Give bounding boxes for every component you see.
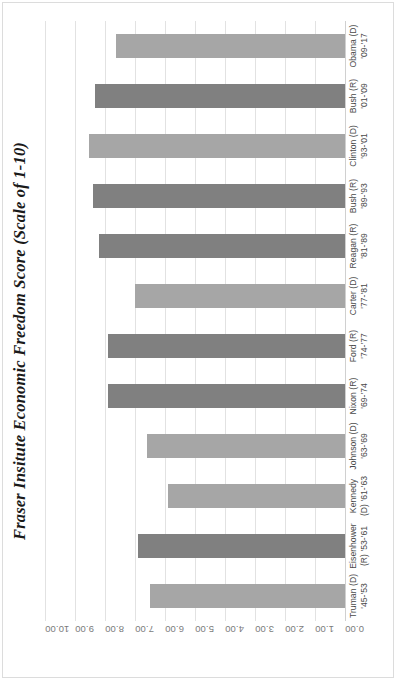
figure-frame: Fraser Insitute Economic Freedom Score (…	[2, 2, 394, 678]
bar	[93, 184, 345, 208]
bar	[135, 284, 345, 308]
category-label: Ford (R)'74-'77	[348, 320, 369, 372]
category-label: Nixon (R)'69-'74	[348, 370, 369, 422]
category-label-years: '77-'81	[359, 270, 370, 322]
category-label-name: Truman (D)	[348, 570, 359, 622]
category-label-name: Reagan (R)	[348, 220, 359, 272]
category-label-name: Johnson (D)	[348, 420, 359, 472]
category-label: Truman (D)'45-'53	[348, 570, 369, 622]
category-label-name: Nixon (R)	[348, 370, 359, 422]
category-label-years: '74-'77	[359, 320, 370, 372]
category-label-years: '81-'89	[359, 220, 370, 272]
bar	[108, 334, 345, 358]
bar	[95, 84, 346, 108]
value-tick-label: 0.00	[345, 623, 391, 635]
category-label-years: '63-'69	[359, 420, 370, 472]
category-label: Bush (R)'89-'93	[348, 170, 369, 222]
category-label-name: Bush (R)	[348, 170, 359, 222]
category-label: Johnson (D)'63-'69	[348, 420, 369, 472]
chart-title: Fraser Insitute Economic Freedom Score (…	[3, 3, 37, 679]
category-label: Obama (D)'09-'17	[348, 20, 369, 72]
category-label-name: Carter (D)	[348, 270, 359, 322]
rotated-chart-stage: Fraser Insitute Economic Freedom Score (…	[3, 3, 395, 679]
bar	[138, 534, 345, 558]
category-label: Carter (D)'77-'81	[348, 270, 369, 322]
category-label: Clinton (D)'93-'01	[348, 120, 369, 172]
category-label-years: '01-'09	[359, 70, 370, 122]
bars-layer	[45, 21, 345, 621]
bar	[168, 484, 345, 508]
category-label-years: '93-'01	[359, 120, 370, 172]
category-label: Bush (R)'01-'09	[348, 70, 369, 122]
bar	[150, 584, 345, 608]
category-label-years: '89-'93	[359, 170, 370, 222]
bar	[108, 384, 345, 408]
category-label-name: Obama (D)	[348, 20, 359, 72]
category-label-years: '45-'53	[359, 570, 370, 622]
category-label-years: (R) '53-'61	[359, 520, 370, 572]
bar	[99, 234, 345, 258]
bar	[116, 34, 346, 58]
category-label-name: Ford (R)	[348, 320, 359, 372]
category-label-years: (D) '61-'63	[359, 470, 370, 522]
category-label-name: Eisenhower	[348, 520, 359, 572]
bar	[147, 434, 345, 458]
category-label-name: Bush (R)	[348, 70, 359, 122]
category-label-years: '09-'17	[359, 20, 370, 72]
gridline-0-00	[345, 21, 346, 621]
category-label-name: Clinton (D)	[348, 120, 359, 172]
category-axis: Truman (D)'45-'53Eisenhower(R) '53-'61Ke…	[348, 21, 394, 621]
category-label: Kennedy(D) '61-'63	[348, 470, 369, 522]
category-label-years: '69-'74	[359, 370, 370, 422]
bar	[89, 134, 346, 158]
category-label-name: Kennedy	[348, 470, 359, 522]
category-label: Reagan (R)'81-'89	[348, 220, 369, 272]
category-label: Eisenhower(R) '53-'61	[348, 520, 369, 572]
